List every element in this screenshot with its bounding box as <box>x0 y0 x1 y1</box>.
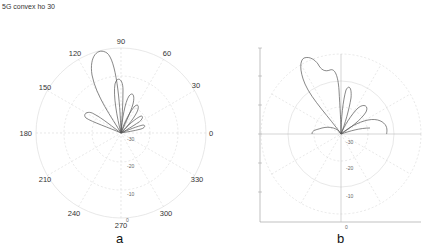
tick-label: 330 <box>191 175 204 184</box>
panel-label-b: b <box>337 231 344 246</box>
tick-label: 240 <box>68 209 81 218</box>
radial-label: -30 <box>346 139 353 145</box>
radial-label: -10 <box>127 191 134 197</box>
tick-label: 300 <box>160 209 173 218</box>
radial-label: 0 <box>126 217 129 223</box>
tick-label: 180 <box>19 129 32 138</box>
radial-ticks-b: -30 -20 -10 0 <box>345 139 353 230</box>
tick-label: 60 <box>163 49 171 58</box>
tick-label: 150 <box>39 83 52 92</box>
tick-label: 210 <box>39 175 52 184</box>
pattern-curve-b <box>301 57 387 134</box>
tick-label: 0 <box>209 129 213 138</box>
figure-canvas: 0 30 60 90 120 150 180 210 240 270 300 3… <box>0 0 437 248</box>
tick-label: 90 <box>117 37 125 46</box>
angular-ticks-a: 0 30 60 90 120 150 180 210 240 270 300 3… <box>19 37 213 230</box>
radial-label: -30 <box>127 136 134 142</box>
polar-chart-b <box>258 48 421 222</box>
tick-label: 120 <box>69 49 82 58</box>
panel-label-a: a <box>116 231 123 246</box>
radial-ticks-a: -30 -20 -10 0 <box>126 136 134 223</box>
radial-label: 0 <box>345 224 348 230</box>
pattern-curve-a <box>85 51 145 133</box>
tick-label: 30 <box>192 81 200 90</box>
radial-label: -10 <box>346 193 353 199</box>
radial-label: -20 <box>127 163 134 169</box>
radial-label: -20 <box>346 165 353 171</box>
